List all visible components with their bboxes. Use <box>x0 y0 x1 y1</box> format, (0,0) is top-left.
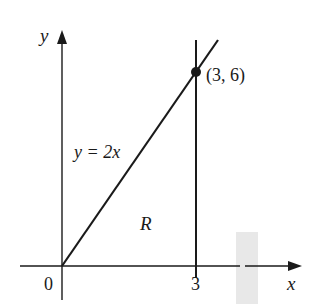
curve-label: y = 2x <box>72 142 120 162</box>
graph: y x 0 3 (3, 6) y = 2x R <box>0 0 324 306</box>
x-axis-arrow-icon <box>288 261 302 271</box>
y-axis-arrow-icon <box>57 30 67 44</box>
origin-label: 0 <box>44 274 53 294</box>
y-axis-label: y <box>38 25 49 46</box>
point-label: (3, 6) <box>206 65 245 86</box>
smudge <box>236 232 258 304</box>
intersection-point <box>191 67 201 77</box>
x-tick-3-label: 3 <box>191 274 200 294</box>
region-label: R <box>139 213 152 234</box>
x-axis-label: x <box>286 273 296 294</box>
